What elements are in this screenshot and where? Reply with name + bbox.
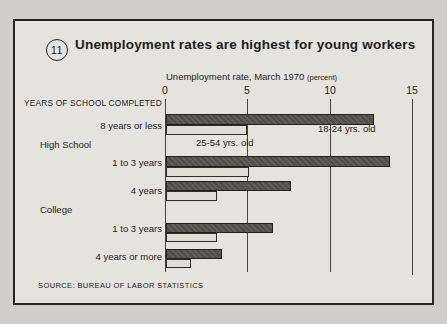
- x-axis-unit: (percent): [307, 73, 337, 82]
- row-label-hs-4-years: 4 years: [15, 185, 162, 196]
- bar-18-24-hs-4-years: [166, 181, 291, 191]
- source-note: SOURCE: BUREAU OF LABOR STATISTICS: [38, 281, 203, 290]
- bar-25-54-8-years-or-less: [166, 125, 247, 135]
- column-header: YEARS OF SCHOOL COMPLETED: [15, 98, 162, 108]
- gridline-15: [412, 99, 413, 275]
- tick-label-15: 15: [397, 84, 427, 96]
- bar-25-54-college-1-to-3-years: [166, 233, 217, 242]
- bar-18-24-college-4-years-or-more: [166, 249, 222, 259]
- series-label-25-54: 25-54 yrs. old: [196, 137, 254, 148]
- bar-25-54-college-4-years-or-more: [166, 259, 191, 268]
- chart-frame: 11 Unemployment rates are highest for yo…: [13, 19, 434, 305]
- row-label-hs-1-to-3-years: 1 to 3 years: [15, 157, 162, 168]
- x-axis-title: Unemployment rate, March 1970 (percent): [166, 71, 337, 82]
- row-label-college-1-to-3-years: 1 to 3 years: [15, 223, 162, 234]
- tick-label-5: 5: [232, 84, 262, 96]
- figure-number-badge: 11: [46, 39, 68, 61]
- tick-label-10: 10: [315, 84, 345, 96]
- row-label-college-4-years-or-more: 4 years or more: [15, 251, 162, 262]
- group-label-college: College: [40, 204, 72, 215]
- series-label-18-24: 18-24 yrs. old: [318, 123, 376, 134]
- bar-25-54-hs-4-years: [166, 191, 217, 201]
- chart-title: Unemployment rates are highest for young…: [75, 37, 405, 52]
- figure-number: 11: [51, 44, 63, 56]
- bar-25-54-hs-1-to-3-years: [166, 167, 249, 177]
- figure-canvas: 11 Unemployment rates are highest for yo…: [0, 0, 447, 324]
- group-label-high-school: High School: [40, 139, 91, 150]
- row-label-8-years-or-less: 8 years or less: [15, 120, 162, 131]
- x-axis-title-text: Unemployment rate, March 1970: [166, 71, 304, 82]
- tick-label-0: 0: [150, 84, 180, 96]
- bar-18-24-hs-1-to-3-years: [166, 156, 390, 167]
- bar-18-24-college-1-to-3-years: [166, 223, 273, 233]
